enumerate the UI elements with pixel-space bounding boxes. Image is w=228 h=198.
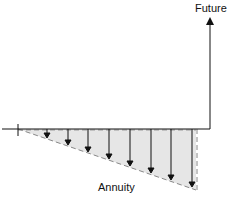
annuity-label: Annuity (98, 182, 135, 193)
annuity-diagram: Future Annuity (0, 0, 228, 198)
future-arrow-head-icon (206, 17, 214, 25)
future-label: Future (195, 3, 227, 14)
diagram-canvas (0, 0, 228, 198)
